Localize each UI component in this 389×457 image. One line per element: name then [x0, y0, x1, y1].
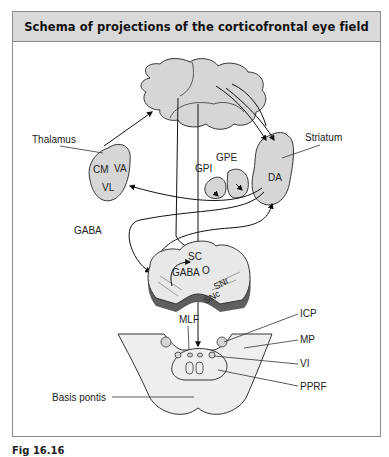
label-gpe: GPE: [216, 152, 237, 163]
label-cm: CM: [93, 164, 109, 175]
label-mlf: MLF: [179, 314, 199, 325]
pons-shape: [118, 334, 272, 414]
label-icp: ICP: [300, 308, 317, 319]
label-gaba-inner: GABA: [172, 267, 200, 278]
label-striatum: Striatum: [305, 132, 342, 143]
label-pprf: PPRF: [300, 381, 327, 392]
label-vi: VI: [300, 358, 309, 369]
label-thalamus: Thalamus: [32, 134, 76, 145]
label-vl: VL: [102, 182, 115, 193]
arrow-thalamus-to-cortex: [104, 112, 152, 146]
label-va: VA: [114, 163, 127, 174]
label-basis-pontis: Basis pontis: [52, 392, 106, 403]
figure-caption: Fig 16.16: [12, 445, 382, 457]
label-gaba-outer: GABA: [74, 225, 102, 236]
label-o: O: [202, 265, 210, 276]
gpe-shape: [227, 169, 248, 198]
label-mp: MP: [300, 334, 315, 345]
label-da: DA: [268, 172, 282, 183]
label-sc: SC: [188, 251, 202, 262]
caption-number: Fig 16.16: [12, 445, 65, 456]
gpi-shape: [205, 177, 226, 198]
striatum-shape: [252, 133, 293, 205]
